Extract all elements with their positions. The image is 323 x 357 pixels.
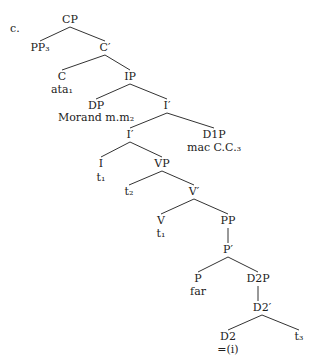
tree-node-ibar1: I′ — [164, 100, 171, 112]
tree-node-c: C — [58, 71, 66, 83]
tree-node-cp: CP — [62, 14, 78, 26]
tree-branch — [228, 315, 262, 330]
tree-node-eq_i: =(i) — [217, 344, 238, 356]
tree-node-maccc3: mac C.C.₃ — [187, 142, 241, 154]
tree-node-vbar: V′ — [189, 186, 199, 198]
tree-node-t1a: t₁ — [97, 172, 106, 184]
tree-node-far: far — [190, 286, 206, 298]
tree-node-t3: t₃ — [295, 331, 304, 343]
tree-branch — [130, 113, 167, 128]
tree-branch — [167, 113, 214, 128]
syntax-tree-diagram: c. CPPP₃C′Cata₁IPDPMorand m.m₂I′I′D1Pmac… — [0, 0, 323, 357]
tree-node-morand: Morand m.m₂ — [58, 112, 134, 124]
tree-branch — [198, 257, 228, 272]
tree-node-ip: IP — [124, 71, 136, 83]
tree-branch — [101, 142, 130, 157]
tree-node-ibar2: I′ — [127, 129, 134, 141]
tree-branch — [62, 55, 105, 70]
tree-node-ata1: ata₁ — [51, 84, 73, 96]
tree-node-v: V — [157, 215, 165, 227]
tree-branch — [161, 199, 194, 214]
tree-node-d2: D2 — [220, 331, 236, 343]
tree-node-pp: PP — [221, 215, 236, 227]
tree-node-t2: t₂ — [125, 186, 134, 198]
tree-node-p: P — [194, 273, 201, 285]
tree-branch — [262, 315, 299, 330]
tree-node-d2p: D2P — [246, 273, 269, 285]
tree-branch — [105, 55, 130, 70]
tree-branch — [130, 84, 167, 99]
tree-branch — [194, 199, 228, 214]
tree-branch — [130, 142, 162, 157]
tree-node-d2bar: D2′ — [253, 302, 271, 314]
tree-node-t1b: t₁ — [157, 228, 166, 240]
tree-node-d1p: D1P — [202, 129, 225, 141]
tree-branch — [162, 171, 194, 185]
tree-branch — [129, 171, 162, 185]
tree-branch — [96, 84, 130, 99]
tree-branch — [228, 257, 258, 272]
tree-node-cbar: C′ — [100, 42, 111, 54]
tree-branch — [40, 27, 70, 41]
tree-node-i: I — [99, 158, 103, 170]
tree-node-pp3: PP₃ — [30, 42, 49, 54]
tree-branch — [70, 27, 105, 41]
tree-node-pbar: P′ — [223, 244, 233, 256]
tree-node-vp: VP — [154, 158, 169, 170]
